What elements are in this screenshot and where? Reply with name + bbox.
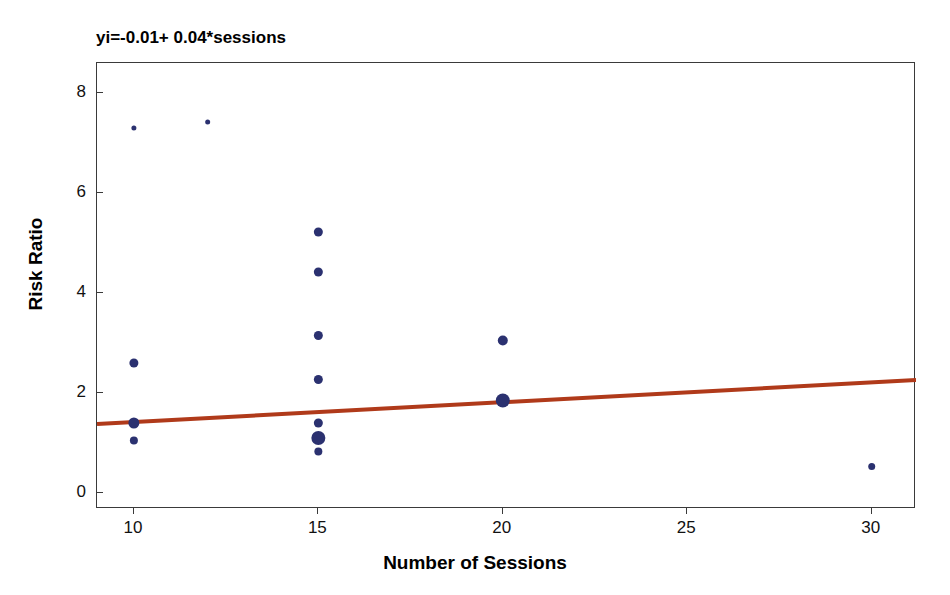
data-point xyxy=(314,331,323,340)
y-axis-tick-label: 8 xyxy=(58,82,86,102)
x-axis-title: Number of Sessions xyxy=(0,552,950,574)
y-axis-tick-mark xyxy=(96,292,103,293)
y-axis-tick-mark xyxy=(96,492,103,493)
data-point xyxy=(314,268,323,277)
data-point xyxy=(868,463,875,470)
data-point xyxy=(314,228,323,237)
y-axis-title: Risk Ratio xyxy=(25,154,47,374)
x-axis-tick-mark xyxy=(871,508,872,514)
x-axis-tick-label: 30 xyxy=(841,518,901,538)
y-axis-tick-label: 2 xyxy=(58,382,86,402)
data-point xyxy=(314,419,323,428)
x-axis-tick-mark xyxy=(133,508,134,514)
x-axis-tick-label: 25 xyxy=(656,518,716,538)
data-point xyxy=(131,126,136,131)
data-point xyxy=(498,336,508,346)
x-axis-tick-label: 15 xyxy=(287,518,347,538)
y-axis-tick-labels: 02468 xyxy=(52,62,86,508)
scatter-plot-figure: yi=-0.01+ 0.04*sessions Risk Ratio 02468… xyxy=(0,0,950,595)
plot-canvas xyxy=(97,63,916,509)
y-axis-tick-label: 4 xyxy=(58,282,86,302)
data-point xyxy=(128,418,139,429)
data-point xyxy=(311,431,325,445)
x-axis-tick-mark xyxy=(317,508,318,514)
data-point xyxy=(496,394,510,408)
data-point xyxy=(129,359,138,368)
plot-area xyxy=(96,62,915,508)
y-axis-tick-mark xyxy=(96,192,103,193)
y-axis-tick-mark xyxy=(96,92,103,93)
page-title: yi=-0.01+ 0.04*sessions xyxy=(96,28,286,48)
x-axis-tick-label: 20 xyxy=(472,518,532,538)
x-axis-tick-mark xyxy=(686,508,687,514)
y-axis-tick-label: 6 xyxy=(58,182,86,202)
x-axis-tick-label: 10 xyxy=(103,518,163,538)
y-axis-tick-label: 0 xyxy=(58,482,86,502)
x-axis-tick-labels: 1015202530 xyxy=(0,518,950,542)
data-point xyxy=(314,375,323,384)
data-point xyxy=(314,448,322,456)
y-axis-tick-mark xyxy=(96,392,103,393)
data-point xyxy=(130,437,138,445)
data-point xyxy=(205,120,210,125)
x-axis-tick-mark xyxy=(502,508,503,514)
